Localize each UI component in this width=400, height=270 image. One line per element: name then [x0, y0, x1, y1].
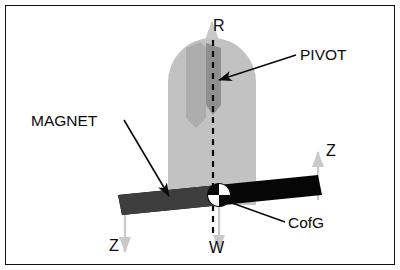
diagram-canvas: PIVOT MAGNET CofG R Z Z W	[0, 0, 400, 270]
label-pivot: PIVOT	[300, 47, 347, 63]
label-force-z-left: Z	[109, 238, 119, 254]
label-reaction-force-r: R	[213, 18, 225, 34]
centre-of-gravity-quadrant-symbol	[208, 184, 231, 207]
label-weight-force-w: W	[209, 240, 224, 256]
pendulum-shading-band	[186, 42, 206, 128]
label-magnet: MAGNET	[31, 113, 97, 129]
magnet-leader-line	[124, 120, 169, 196]
cofg-leader-line	[232, 203, 285, 222]
label-cofg: CofG	[288, 215, 324, 231]
label-force-z-right: Z	[326, 143, 336, 159]
diagram-scene	[0, 0, 400, 270]
